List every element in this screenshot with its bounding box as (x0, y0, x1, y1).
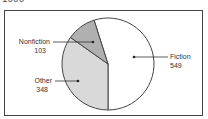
slice-label-name: Nonfiction (19, 38, 50, 45)
callout-dot (92, 41, 95, 44)
slice-label-name: Other (34, 77, 52, 84)
callout-dot (133, 56, 136, 59)
slice-label-value: 348 (36, 86, 48, 93)
pie-chart: Fiction549Other348Nonfiction103 (0, 0, 208, 119)
slice-label-value: 549 (170, 62, 182, 69)
callout-dot (77, 80, 80, 83)
slice-label-name: Fiction (170, 53, 191, 60)
slice-label-value: 103 (34, 47, 46, 54)
